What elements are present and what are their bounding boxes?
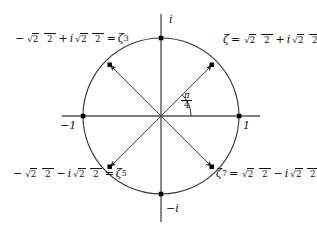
- sqrt-radical: √2: [74, 34, 88, 44]
- angle-label-pi-over-4: π 4: [180, 91, 193, 110]
- axis-label-real-negative: −1: [60, 120, 76, 131]
- fraction-sqrt2-over-2-imag: √2 2: [289, 168, 317, 180]
- point-marker-zeta-cubed: [108, 63, 113, 68]
- imaginary-sign: −: [55, 168, 68, 179]
- sqrt-radical: √2: [289, 169, 303, 179]
- fraction-sqrt2-over-2-imag: √2 2: [74, 33, 103, 45]
- vector-zeta-cubed: [110, 65, 161, 116]
- imaginary-unit: i: [287, 34, 291, 45]
- root-label-zeta-fifth: − √2 2 − i √2 2 = ζ5: [12, 168, 127, 180]
- sqrt-radical: √2: [72, 169, 86, 179]
- equals-sign: =: [227, 168, 240, 179]
- equals-sign: =: [105, 33, 118, 44]
- equals-sign: =: [103, 168, 116, 179]
- imaginary-unit: i: [70, 33, 74, 44]
- fraction-sqrt2-over-2: √2 2: [243, 34, 272, 46]
- axis-label-imaginary-negative: −i: [166, 203, 179, 214]
- point-marker-neg-one: [81, 114, 86, 119]
- sqrt-radical: √2: [26, 34, 40, 44]
- point-marker-one: [237, 114, 242, 119]
- zeta-symbol: ζ: [118, 33, 124, 44]
- real-sign: −: [14, 33, 25, 44]
- imaginary-sign: +: [57, 33, 70, 44]
- point-marker-zeta: [210, 63, 215, 68]
- sqrt-radical: √2: [24, 169, 38, 179]
- point-marker-neg-i: [159, 192, 164, 197]
- fraction-sqrt2-over-2: √2 2: [24, 168, 53, 180]
- sqrt-radical: √2: [243, 35, 257, 45]
- imaginary-unit: i: [68, 168, 72, 179]
- real-sign: −: [12, 168, 23, 179]
- point-marker-i: [159, 36, 164, 41]
- imaginary-unit: i: [285, 168, 289, 179]
- root-label-zeta-cubed: − √2 2 + i √2 2 = ζ3: [14, 33, 129, 45]
- imaginary-sign: +: [274, 34, 287, 45]
- zeta-symbol: ζ: [116, 168, 122, 179]
- sqrt-radical: √2: [241, 169, 255, 179]
- fraction-pi-four: π 4: [181, 91, 192, 110]
- equals-sign: =: [229, 34, 242, 45]
- root-label-zeta: ζ = √2 2 + i √2 2: [223, 34, 317, 46]
- fraction-sqrt2-over-2-imag: √2 2: [291, 34, 317, 46]
- sqrt-radical: √2: [291, 35, 305, 45]
- fraction-sqrt2-over-2: √2 2: [26, 33, 55, 45]
- vector-zeta-seventh: [161, 116, 212, 167]
- vector-zeta-fifth: [110, 116, 161, 167]
- complex-plane-figure: i −i 1 −1 π 4 ζ = √2 2 + i √2 2: [0, 0, 317, 234]
- point-marker-zeta-seventh: [210, 165, 215, 170]
- fraction-sqrt2-over-2-imag: √2 2: [72, 168, 101, 180]
- axis-label-imaginary-positive: i: [169, 14, 173, 25]
- axis-label-real-positive: 1: [243, 120, 250, 131]
- root-label-zeta-seventh: ζ7 = √2 2 − i √2 2: [216, 168, 317, 180]
- fraction-sqrt2-over-2: √2 2: [241, 168, 270, 180]
- imaginary-sign: −: [272, 168, 285, 179]
